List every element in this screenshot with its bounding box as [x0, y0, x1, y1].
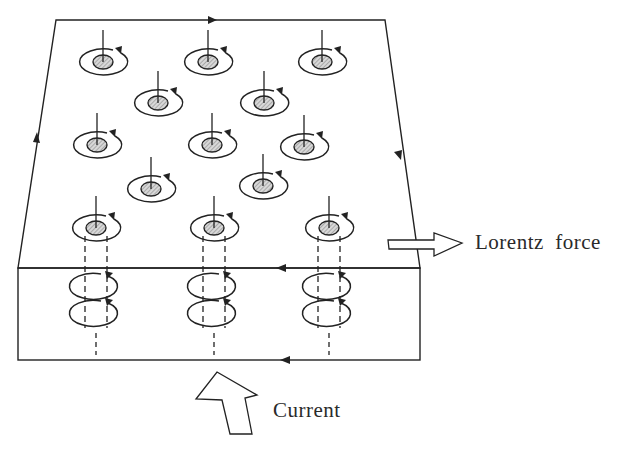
vortex [185, 30, 233, 75]
surface-vortices [74, 30, 347, 202]
circulation-arrow-icon [224, 129, 231, 137]
circulation-arrow-icon [275, 170, 282, 178]
tube-loop [302, 273, 350, 299]
vortex [74, 113, 122, 158]
circulation-arrow-icon [115, 46, 122, 54]
tube-loop [69, 300, 117, 326]
vortex [80, 30, 128, 75]
vortex [240, 154, 288, 199]
circulation-arrow-icon [316, 131, 323, 139]
arrow-front-top-left-icon [276, 264, 286, 272]
tube-loop [69, 273, 117, 299]
slab [18, 20, 420, 360]
edge-current-arrows [33, 16, 402, 364]
circulation-arrow-icon [341, 212, 348, 220]
vortex [302, 196, 353, 355]
tube-loop [187, 273, 235, 299]
tube-loop [187, 300, 235, 326]
circulation-arrow-icon [170, 87, 177, 95]
vortex [241, 71, 289, 116]
circulation-arrow-icon [276, 87, 283, 95]
vortex [135, 71, 183, 116]
superconductor-vortex-diagram [0, 0, 642, 452]
arrow-top-edge-right-icon [208, 16, 217, 24]
current-label: Current [273, 398, 341, 423]
vortex [299, 30, 347, 75]
vortex [281, 115, 329, 160]
circulation-arrow-icon [163, 173, 170, 181]
current-arrow-icon [196, 372, 257, 434]
tube-vortices [69, 196, 353, 355]
circulation-arrow-icon [109, 129, 116, 137]
tube-loop [302, 300, 350, 326]
vortex [69, 196, 120, 355]
arrow-front-bottom-left-icon [280, 356, 290, 364]
arrow-right-edge-down-icon [394, 150, 402, 160]
vortex [128, 157, 176, 202]
circulation-arrow-icon [108, 212, 115, 220]
lorentz-force-arrow-icon [388, 233, 462, 256]
circulation-arrow-icon [220, 46, 227, 54]
vortex [187, 196, 238, 355]
circulation-arrow-icon [334, 46, 341, 54]
vortex [189, 113, 237, 158]
lorentz-force-label: Lorentz force [475, 230, 601, 255]
circulation-arrow-icon [226, 212, 233, 220]
slab-front-face [18, 268, 420, 360]
